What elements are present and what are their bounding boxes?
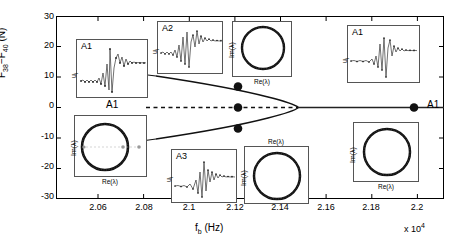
ytick-label: -20	[14, 162, 54, 171]
inset-xlabel-circ-a1-right: Re(λ)	[366, 183, 406, 190]
inset-ylabel-circ-a1-left: Im(λ)	[70, 140, 77, 156]
xtick-label: 2.1	[169, 203, 209, 212]
inset-ylabel-sub: i	[168, 177, 174, 178]
inset-ylabel-a2: ui	[151, 49, 161, 54]
inset-xlabel-circ-a2: Re(λ)	[242, 78, 282, 85]
ytick-label: -30	[14, 192, 54, 201]
inset-ylabel-a1-right: ui	[341, 58, 351, 63]
timeseries-plot	[172, 150, 238, 204]
eigenvalue-unstable	[82, 145, 85, 148]
x-axis-multiplier: x 104	[404, 222, 425, 234]
inset-ylabel-circ-a1-right: Im(λ)	[349, 147, 356, 163]
branch-label-a1-right: A1	[427, 100, 439, 110]
inset-ylabel-circ-a3: Im(λ)	[240, 170, 247, 186]
unit-circle-plot	[245, 147, 310, 205]
x-axis-multiplier-exp: 4	[421, 222, 425, 229]
ytick-label: 20	[14, 41, 54, 50]
inset-ylabel-text: u	[70, 74, 77, 78]
inset-timeseries-a1-left: A1	[76, 39, 148, 98]
x-axis-multiplier-base: x 10	[404, 224, 421, 234]
y-axis-label-sub2: 40	[2, 44, 9, 52]
ytick-label: 30	[14, 12, 54, 21]
inset-xlabel-circ-a3: Re(λ)	[256, 138, 296, 145]
inset-eigencircle-a1-right	[353, 122, 419, 182]
inset-ylabel-text: u	[341, 59, 348, 63]
x-axis-label: fb (Hz)	[195, 222, 223, 235]
marker-a3	[234, 124, 243, 133]
unit-circle-plot	[75, 116, 148, 178]
x-axis-label-unit: (Hz)	[202, 222, 224, 233]
ytick-label: 10	[14, 71, 54, 80]
inset-ylabel-text: u	[151, 50, 158, 54]
y-axis-label-minus: −	[0, 58, 7, 64]
xtick-label: 2.2	[397, 203, 437, 212]
branch-a3-curve	[156, 108, 299, 140]
y-axis-label: F38−F40 (N)	[0, 0, 9, 78]
marker-a1-left	[234, 103, 243, 112]
inset-ylabel-a3: ui	[165, 177, 175, 182]
inset-ylabel-circ-a2: Im(λ)	[228, 42, 235, 58]
xtick-label: 2.18	[351, 203, 391, 212]
inset-xlabel-circ-a1-left: Re(λ)	[90, 178, 130, 185]
inset-ylabel-text: u	[165, 178, 172, 182]
inset-timeseries-a3: A3	[171, 149, 237, 203]
y-axis-label-f1: F	[0, 72, 7, 78]
xtick-label: 2.08	[124, 203, 164, 212]
inset-eigencircle-a1-left	[74, 115, 147, 177]
figure-bifurcation-diagram: 30 20 10 0 -10 -20 -30 F38−F40 (N) 2.06 …	[0, 0, 451, 246]
branch-label-a1-left: A1	[106, 100, 118, 110]
inset-ylabel-sub: i	[73, 73, 79, 74]
unit-circle-plot	[354, 123, 420, 183]
inset-timeseries-a1-right: A1	[347, 25, 420, 83]
marker-a1-right	[410, 103, 419, 112]
eigenvalue-unstable	[121, 145, 125, 149]
inset-eigencircle-a3	[244, 146, 309, 204]
y-axis-label-unit: (N)	[0, 28, 7, 45]
eigenvalue-unstable	[137, 145, 141, 149]
inset-ylabel-sub: i	[344, 58, 350, 59]
ytick-label: -10	[14, 132, 54, 141]
inset-eigencircle-a2	[232, 21, 292, 77]
ytick-label: 0	[14, 101, 54, 110]
inset-ylabel-a1-left: ui	[70, 73, 80, 78]
timeseries-plot	[348, 26, 421, 84]
y-axis-label-f2: F	[0, 52, 7, 58]
y-axis-label-sub1: 38	[2, 64, 9, 72]
marker-a2	[234, 82, 243, 91]
inset-ylabel-sub: i	[154, 49, 160, 50]
xtick-label: 2.06	[78, 203, 118, 212]
timeseries-plot	[77, 40, 149, 99]
xtick-label: 2.16	[306, 203, 346, 212]
inset-timeseries-a2: A2	[157, 21, 223, 74]
unit-circle-plot	[233, 22, 293, 78]
timeseries-plot	[158, 22, 224, 75]
